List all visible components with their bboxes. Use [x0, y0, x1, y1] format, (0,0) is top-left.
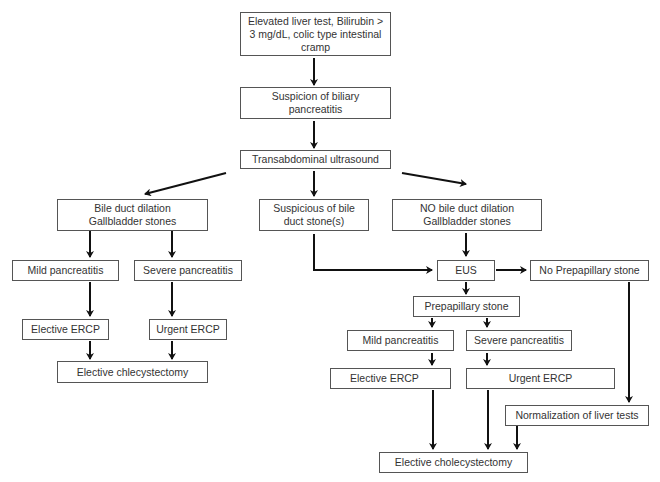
node-start-line-2: 3 mg/dL, colic type intestinal — [248, 28, 383, 41]
node-prepapillary-stone: Prepapillary stone — [413, 296, 520, 317]
flowchart-canvas: Elevated liver test, Bilirubin > 3 mg/dL… — [0, 0, 660, 482]
node-right-elective-ercp: Elective ERCP — [330, 368, 451, 389]
node-left-urgent-ercp: Urgent ERCP — [149, 319, 227, 340]
node-bile-duct-dilation: Bile duct dilation Gallbladder stones — [57, 199, 208, 231]
node-eus: EUS — [437, 260, 495, 281]
node-suspicious-line-2: duct stone(s) — [273, 215, 355, 228]
node-no-bile-duct-dilation: NO bile duct dilation Gallbladder stones — [392, 199, 542, 231]
node-start-line-1: Elevated liver test, Bilirubin > — [248, 15, 383, 28]
node-dilation-line-2: Gallbladder stones — [89, 215, 177, 228]
node-ultrasound: Transabdominal ultrasound — [240, 150, 391, 169]
node-left-severe-pancreatitis: Severe pancreatitis — [134, 260, 242, 281]
node-right-elective-cholecystectomy: Elective cholecystectomy — [379, 452, 528, 473]
node-suspicion-line-2: pancreatitis — [272, 103, 360, 116]
node-right-severe-pancreatitis: Severe pancreatitis — [466, 330, 572, 351]
node-suspicion-line-1: Suspicion of biliary — [272, 90, 360, 103]
node-dilation-line-1: Bile duct dilation — [89, 202, 177, 215]
node-start-line-3: cramp — [248, 41, 383, 54]
node-suspicious-line-1: Suspicious of bile — [273, 202, 355, 215]
node-suspicion: Suspicion of biliary pancreatitis — [240, 87, 391, 119]
node-right-urgent-ercp: Urgent ERCP — [466, 368, 615, 389]
node-left-mild-pancreatitis: Mild pancreatitis — [12, 260, 119, 281]
node-start: Elevated liver test, Bilirubin > 3 mg/dL… — [240, 12, 391, 56]
node-suspicious-stone: Suspicious of bile duct stone(s) — [259, 199, 369, 231]
node-left-elective-ercp: Elective ERCP — [22, 319, 109, 340]
node-no-prepapillary-stone: No Prepapillary stone — [530, 260, 649, 281]
node-left-elective-cholecystectomy: Elective chlecystectomy — [57, 361, 208, 383]
node-no-dilation-line-2: Gallbladder stones — [420, 215, 514, 228]
node-normalization-liver-tests: Normalization of liver tests — [505, 405, 649, 426]
node-no-dilation-line-1: NO bile duct dilation — [420, 202, 514, 215]
node-right-mild-pancreatitis: Mild pancreatitis — [347, 330, 454, 351]
